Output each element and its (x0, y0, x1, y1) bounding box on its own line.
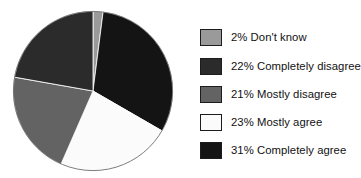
legend-label-completely-agree: 31% Completely agree (231, 144, 346, 157)
legend-swatch-completely-disagree (200, 58, 222, 75)
pie-chart-plot-area (12, 10, 174, 172)
pie-slice-completely-disagree (14, 11, 93, 91)
legend-swatch-completely-agree (200, 142, 222, 159)
legend-label-completely-disagree: 22% Completely disagree (231, 60, 361, 73)
legend-item-dont-know: 2% Don't know (200, 26, 307, 48)
chart-legend: 2% Don't know 22% Completely disagree 21… (200, 26, 361, 162)
pie-chart-figure: 2% Don't know 22% Completely disagree 21… (0, 0, 361, 178)
pie-chart-svg (12, 10, 174, 172)
legend-item-completely-disagree: 22% Completely disagree (200, 55, 361, 77)
legend-item-mostly-disagree: 21% Mostly disagree (200, 83, 337, 105)
legend-label-mostly-agree: 23% Mostly agree (231, 116, 322, 129)
legend-label-dont-know: 2% Don't know (231, 31, 307, 44)
legend-swatch-mostly-agree (200, 114, 222, 131)
legend-swatch-mostly-disagree (200, 86, 222, 103)
legend-label-mostly-disagree: 21% Mostly disagree (231, 88, 337, 101)
legend-item-completely-agree: 31% Completely agree (200, 139, 346, 161)
legend-item-mostly-agree: 23% Mostly agree (200, 111, 322, 133)
legend-swatch-dont-know (200, 29, 222, 46)
